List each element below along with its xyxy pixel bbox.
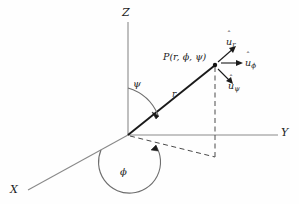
psi-angle-label: ψ	[133, 79, 141, 89]
u-r-body: ur	[226, 37, 235, 50]
phi-angle-arc	[99, 146, 161, 193]
radial-line-r	[128, 66, 214, 135]
u-phi-label: ˆ uϕ	[245, 54, 256, 71]
u-r-label: ˆ ur	[226, 33, 235, 50]
u-psi-label: ˆ uψ	[228, 77, 240, 94]
point-p-label: P(r, ϕ, ψ)	[163, 52, 206, 62]
diagram-canvas	[0, 0, 299, 204]
y-axis-label: Y	[281, 127, 288, 138]
u-r-subscript: r	[232, 41, 235, 49]
z-axis-label: Z	[122, 7, 130, 18]
u-psi-body: uψ	[228, 81, 240, 94]
u-phi-arrowhead	[236, 60, 243, 66]
point-p-marker	[213, 63, 217, 67]
psi-angle-arc	[128, 88, 158, 115]
x-axis-line	[28, 135, 128, 190]
spherical-coordinate-diagram: Z Y X ψ ϕ r P(r, ϕ, ψ) ˆ ur ˆ uϕ ˆ uψ	[0, 0, 299, 204]
u-phi-body: uϕ	[245, 58, 256, 71]
projection-line-dashed	[130, 136, 215, 157]
x-axis-label: X	[10, 184, 18, 195]
phi-arc-arrowhead	[151, 145, 158, 151]
phi-angle-label: ϕ	[120, 167, 127, 177]
u-phi-subscript: ϕ	[251, 62, 256, 70]
u-psi-subscript: ψ	[234, 85, 240, 93]
radial-distance-label: r	[172, 90, 176, 99]
